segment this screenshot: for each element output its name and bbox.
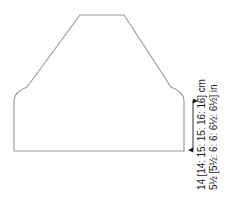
dimension-label-in: 5½ [5½: 6: 6: 6½: 6½] in bbox=[208, 85, 219, 190]
dimension-label-group: 14 [14: 15: 15: 16: 16] cm 5½ [5½: 6: 6:… bbox=[198, 0, 237, 198]
garment-piece-outline bbox=[14, 15, 184, 151]
dimension-label-cm: 14 [14: 15: 15: 16: 16] cm bbox=[196, 79, 207, 190]
schematic-diagram: 14 [14: 15: 15: 16: 16] cm 5½ [5½: 6: 6:… bbox=[0, 0, 237, 198]
